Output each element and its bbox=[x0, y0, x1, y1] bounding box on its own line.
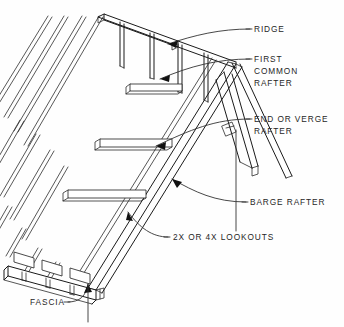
label-end-or-verge-rafter-line2: RAFTER bbox=[254, 126, 293, 136]
diagram-labels: RIDGE FIRST COMMON RAFTER END OR VERGE R… bbox=[30, 24, 328, 307]
rake-corner-detail bbox=[96, 288, 104, 300]
roof-sheathing bbox=[0, 16, 103, 284]
label-barge-rafter: BARGE RAFTER bbox=[250, 197, 325, 207]
label-first-common-rafter-line1: FIRST bbox=[254, 54, 282, 64]
label-first-common-rafter-line2: COMMON bbox=[254, 66, 298, 76]
framing-drawing-canvas: RIDGE FIRST COMMON RAFTER END OR VERGE R… bbox=[0, 0, 344, 327]
label-lookouts: 2X OR 4X LOOKOUTS bbox=[173, 232, 274, 242]
roof-framing-diagram: RIDGE FIRST COMMON RAFTER END OR VERGE R… bbox=[0, 0, 344, 327]
label-end-or-verge-rafter-line1: END OR VERGE bbox=[254, 114, 328, 124]
label-fascia: FASCIA bbox=[30, 297, 65, 307]
end-or-verge-rafter bbox=[88, 62, 242, 293]
label-ridge: RIDGE bbox=[254, 24, 285, 34]
label-first-common-rafter-line3: RAFTER bbox=[254, 78, 293, 88]
ridge-board bbox=[98, 14, 178, 50]
label-ticks bbox=[64, 29, 252, 302]
